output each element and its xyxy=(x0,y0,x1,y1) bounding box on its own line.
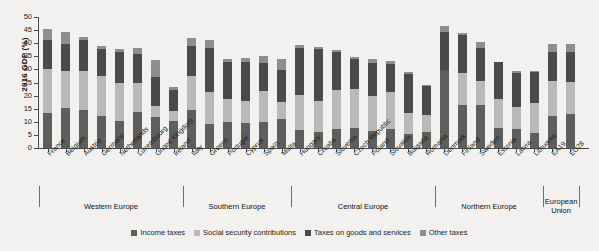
legend-label: Social security contributions xyxy=(203,228,296,237)
y-tick-label: 45 xyxy=(16,26,32,33)
y-tick-label: 35 xyxy=(16,52,32,59)
bar-segment xyxy=(476,48,485,80)
bar-segment xyxy=(205,48,214,91)
bar-segment xyxy=(458,35,467,73)
legend-item[interactable]: Taxes on goods and services xyxy=(305,228,411,237)
region-label: Central Europe xyxy=(318,202,408,211)
bar-stack[interactable] xyxy=(205,40,214,148)
region-separator xyxy=(579,186,580,207)
bar-stack[interactable] xyxy=(61,32,70,148)
bar-segment xyxy=(205,124,214,148)
bar-segment xyxy=(61,71,70,108)
bar-segment xyxy=(169,111,178,121)
bar-stack[interactable] xyxy=(530,71,539,148)
bar-segment xyxy=(476,81,485,105)
legend-swatch xyxy=(420,230,426,236)
bar-segment xyxy=(350,59,359,89)
region-separator xyxy=(435,186,436,207)
bar-segment xyxy=(133,54,142,82)
legend-label: Income taxes xyxy=(140,228,185,237)
bar-stack[interactable] xyxy=(386,61,395,148)
bar-stack[interactable] xyxy=(259,56,268,148)
region-separator xyxy=(183,186,184,207)
bar-segment xyxy=(368,63,377,97)
y-tick-label: 40 xyxy=(16,39,32,46)
bar-stack[interactable] xyxy=(97,46,106,148)
bar-segment xyxy=(512,73,521,107)
bar-stack[interactable] xyxy=(295,45,304,148)
bar-stack[interactable] xyxy=(440,26,449,148)
bar-segment xyxy=(187,38,196,46)
bar-segment xyxy=(440,32,449,70)
legend-swatch xyxy=(194,230,200,236)
bar-segment xyxy=(43,113,52,148)
y-tick-label: 5 xyxy=(16,131,32,138)
region-separator xyxy=(39,186,40,207)
bar-stack[interactable] xyxy=(332,50,341,148)
bar-segment xyxy=(332,90,341,129)
bar-segment xyxy=(259,63,268,91)
bar-stack[interactable] xyxy=(223,59,232,148)
bar-stack[interactable] xyxy=(458,33,467,148)
bar-segment xyxy=(566,52,575,82)
legend-item[interactable]: Income taxes xyxy=(131,228,185,237)
y-tick-label: 30 xyxy=(16,65,32,72)
bar-stack[interactable] xyxy=(566,44,575,148)
bar-segment xyxy=(350,89,359,128)
bar-stack[interactable] xyxy=(476,42,485,148)
bar-stack[interactable] xyxy=(277,59,286,148)
plot-area: 05101520253035404550 xyxy=(38,17,589,148)
bar-segment xyxy=(61,44,70,71)
bar-stack[interactable] xyxy=(314,47,323,148)
region-label: Southern Europe xyxy=(192,202,282,211)
bar-series-container xyxy=(38,17,589,148)
bar-segment xyxy=(422,86,431,115)
bar-segment xyxy=(133,83,142,112)
y-tick-label: 15 xyxy=(16,105,32,112)
bar-segment xyxy=(530,103,539,134)
bar-segment xyxy=(295,95,304,129)
bar-segment xyxy=(43,40,52,69)
bar-segment xyxy=(494,99,503,128)
bar-segment xyxy=(548,81,557,116)
bar-segment xyxy=(79,71,88,110)
bar-segment xyxy=(566,44,575,52)
bar-segment xyxy=(151,60,160,77)
bar-stack[interactable] xyxy=(43,29,52,148)
bar-segment xyxy=(115,52,124,82)
bar-segment xyxy=(259,91,268,122)
bar-segment xyxy=(151,77,160,106)
bar-segment xyxy=(259,56,268,63)
bar-segment xyxy=(295,48,304,96)
legend-item[interactable]: Social security contributions xyxy=(194,228,296,237)
bar-segment xyxy=(530,72,539,102)
bar-segment xyxy=(314,101,323,132)
chart-legend: Income taxesSocial security contribution… xyxy=(0,228,599,237)
bar-segment xyxy=(97,76,106,116)
legend-item[interactable]: Other taxes xyxy=(420,228,468,237)
legend-swatch xyxy=(305,230,311,236)
bar-segment xyxy=(205,92,214,125)
region-label: Western Europe xyxy=(66,202,156,211)
bar-segment xyxy=(548,52,557,82)
bar-segment xyxy=(187,76,196,110)
bar-segment xyxy=(422,115,431,132)
y-tick-label: 25 xyxy=(16,79,32,86)
y-tick xyxy=(34,148,38,149)
bar-segment xyxy=(205,40,214,48)
bar-segment xyxy=(277,70,286,102)
bar-segment xyxy=(223,99,232,123)
y-tick-label: 0 xyxy=(16,144,32,151)
bar-stack[interactable] xyxy=(79,37,88,148)
region-separator xyxy=(291,186,292,207)
y-tick-label: 50 xyxy=(16,13,32,20)
bar-segment xyxy=(79,40,88,72)
bar-segment xyxy=(512,107,521,129)
bar-segment xyxy=(43,69,52,113)
legend-swatch xyxy=(131,230,137,236)
bar-segment xyxy=(386,64,395,93)
bar-segment xyxy=(404,74,413,113)
bar-segment xyxy=(314,49,323,101)
bar-segment xyxy=(458,73,467,105)
bar-stack[interactable] xyxy=(187,38,196,148)
